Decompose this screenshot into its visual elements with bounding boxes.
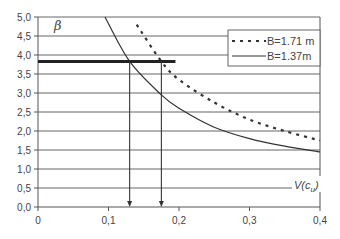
legend-solid-label: B=1.37m	[267, 50, 311, 62]
x-tick-label: 0,4	[313, 215, 327, 226]
y-tick-label: 5,0	[17, 12, 31, 23]
annotations	[38, 61, 175, 207]
y-tick-label: 3,0	[17, 88, 31, 99]
legend: B=1.71 m B=1.37m	[228, 30, 320, 66]
y-tick-label: 2,0	[17, 126, 31, 137]
x-tick-label: 0,2	[172, 215, 186, 226]
y-tick-label: 1,0	[17, 164, 31, 175]
x-tick-label: 0,3	[243, 215, 257, 226]
x-tick-label: 0,1	[102, 215, 116, 226]
arrow-down-icon	[159, 201, 164, 207]
y-tick-label: 1,5	[17, 145, 31, 156]
y-tick-label: 4,0	[17, 50, 31, 61]
y-tick-label: 2,5	[17, 107, 31, 118]
x-label-text: V(c	[294, 179, 311, 191]
y-tick-label: 0,5	[17, 183, 31, 194]
legend-dotted-label: B=1.71 m	[267, 35, 314, 47]
beta-vs-cov-chart: 0,00,51,01,52,02,53,03,54,04,55,000,10,2…	[0, 0, 340, 239]
arrow-down-icon	[127, 201, 132, 207]
y-tick-label: 0,0	[17, 202, 31, 213]
y-tick-label: 4,5	[17, 31, 31, 42]
y-tick-label: 3,5	[17, 69, 31, 80]
y-axis-label: β	[53, 18, 62, 33]
x-tick-label: 0	[35, 215, 41, 226]
x-axis-label: V(cu)	[292, 176, 322, 194]
